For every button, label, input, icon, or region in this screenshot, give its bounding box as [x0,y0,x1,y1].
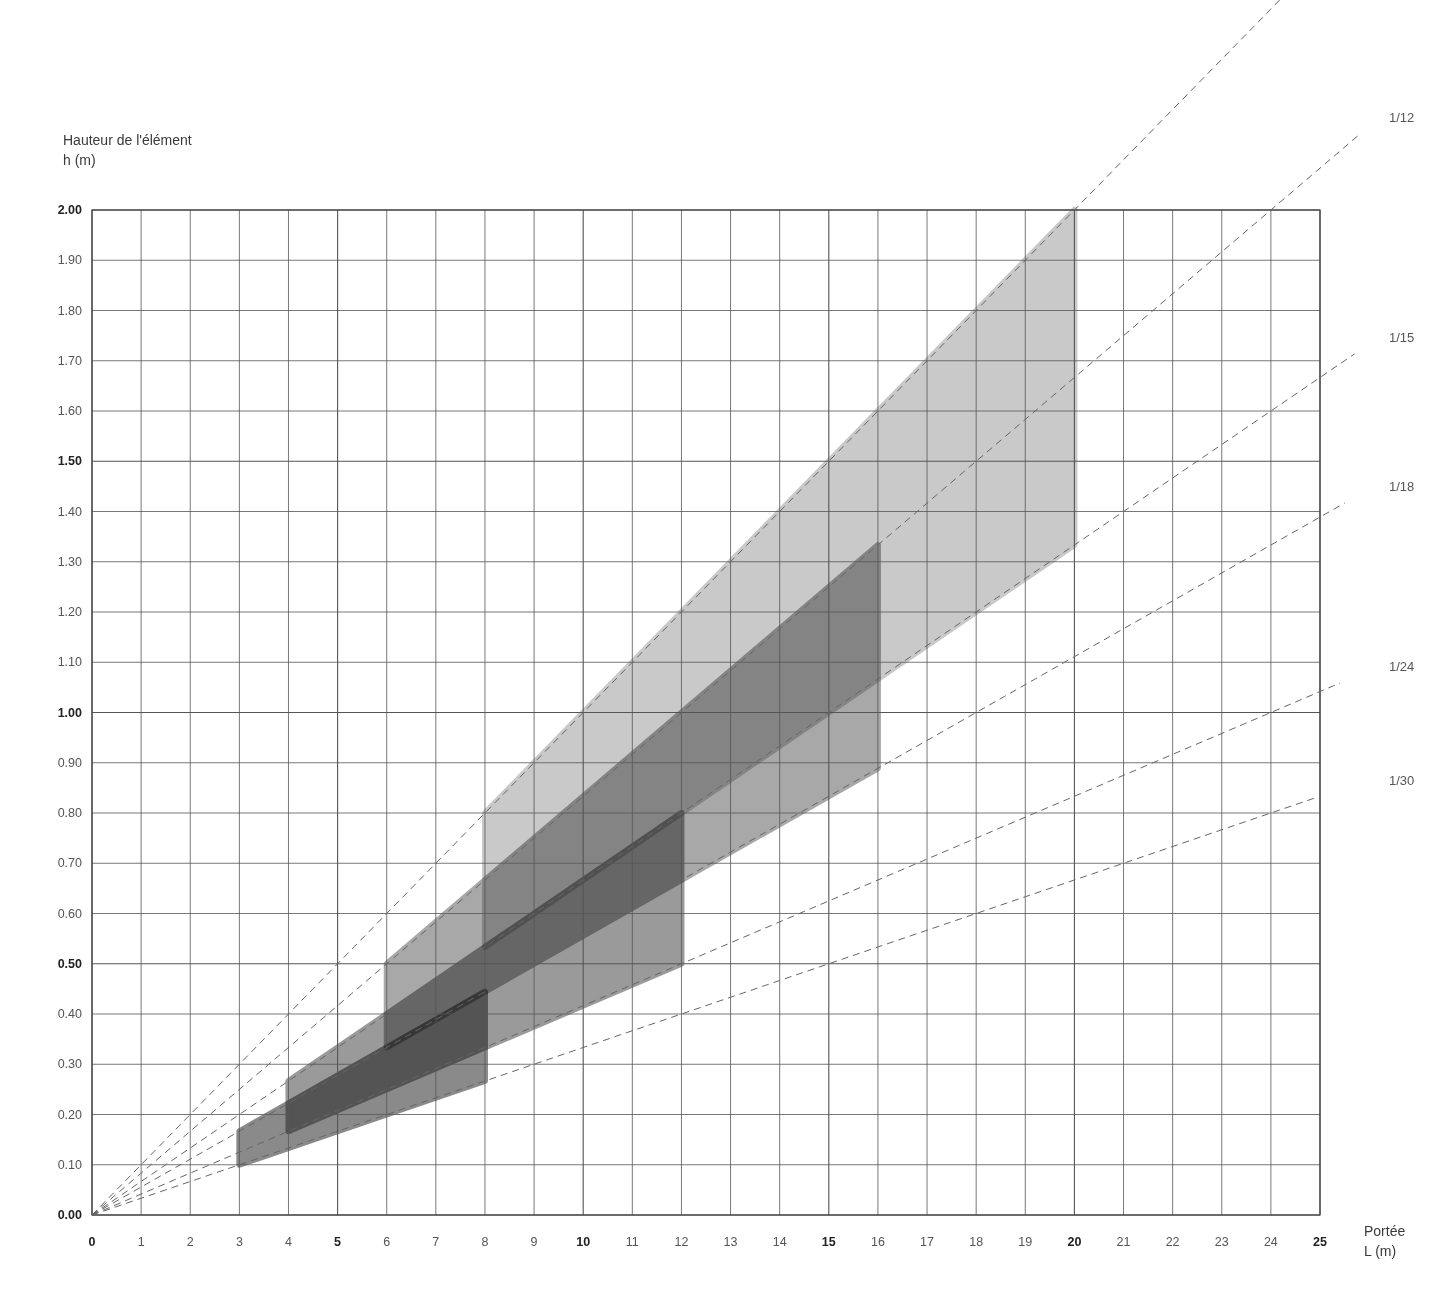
y-tick-label: 0.50 [58,957,82,971]
ratio-label-1-24: 1/24 [1389,659,1414,674]
y-tick-label: 0.40 [58,1007,82,1021]
y-tick-label: 1.30 [58,555,82,569]
y-tick-label: 0.80 [58,806,82,820]
span-depth-chart: 1/121/151/181/241/30 0123456789101112131… [0,0,1441,1300]
y-tick-label: 1.20 [58,605,82,619]
x-tick-label: 3 [236,1235,243,1249]
x-tick-label: 6 [383,1235,390,1249]
y-tick-label: 0.90 [58,756,82,770]
x-tick-label: 13 [724,1235,738,1249]
x-tick-label: 9 [531,1235,538,1249]
x-tick-label: 24 [1264,1235,1278,1249]
y-tick-label: 1.50 [58,454,82,468]
y-tick-label: 2.00 [58,203,82,217]
x-tick-label: 12 [674,1235,688,1249]
y-tick-label: 1.10 [58,655,82,669]
y-tick-label: 0.70 [58,856,82,870]
x-tick-label: 8 [481,1235,488,1249]
ratio-label-1-30: 1/30 [1389,773,1414,788]
x-tick-label: 16 [871,1235,885,1249]
x-tick-label: 20 [1067,1235,1081,1249]
y-tick-label: 0.10 [58,1158,82,1172]
x-tick-label: 21 [1117,1235,1131,1249]
y-tick-label: 1.80 [58,304,82,318]
regions-layer [239,210,1074,1165]
x-tick-label: 1 [138,1235,145,1249]
x-tick-label: 14 [773,1235,787,1249]
x-tick-label: 22 [1166,1235,1180,1249]
ratio-label-1-12: 1/12 [1389,110,1414,125]
y-tick-label: 0.20 [58,1108,82,1122]
ratio-line-1-12 [92,134,1360,1215]
x-tick-label: 19 [1018,1235,1032,1249]
ratio-label-1-18: 1/18 [1389,479,1414,494]
x-tick-label: 10 [576,1235,590,1249]
x-tick-label: 11 [626,1235,639,1249]
x-tick-label: 2 [187,1235,194,1249]
x-tick-label: 15 [822,1235,836,1249]
x-tick-label: 17 [920,1235,934,1249]
x-tick-label: 18 [969,1235,983,1249]
y-tick-label: 1.60 [58,404,82,418]
y-tick-label: 1.00 [58,706,82,720]
x-tick-label: 0 [89,1235,96,1249]
x-tick-label: 5 [334,1235,341,1249]
y-tick-label: 0.60 [58,907,82,921]
x-tick-label: 25 [1313,1235,1327,1249]
x-tick-label: 4 [285,1235,292,1249]
y-tick-label: 1.70 [58,354,82,368]
ratio-label-1-15: 1/15 [1389,330,1414,345]
x-tick-label: 7 [432,1235,439,1249]
y-tick-label: 0.00 [58,1208,82,1222]
x-tick-label: 23 [1215,1235,1229,1249]
region-dark [239,992,485,1165]
y-tick-label: 0.30 [58,1057,82,1071]
y-tick-label: 1.40 [58,505,82,519]
grid-layer [92,210,1320,1215]
y-tick-label: 1.90 [58,253,82,267]
